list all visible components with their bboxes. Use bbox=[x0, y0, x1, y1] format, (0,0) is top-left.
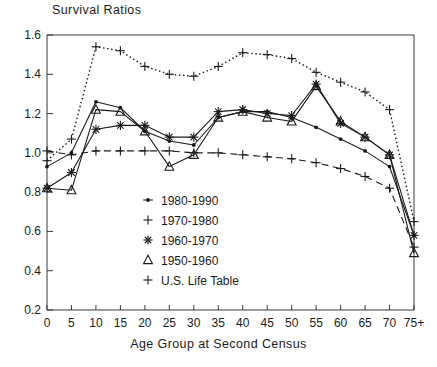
series-line-1960-1970 bbox=[47, 84, 414, 235]
x-tick-label: 45 bbox=[261, 316, 275, 330]
legend-label-4: U.S. Life Table bbox=[161, 274, 239, 288]
legend-label-1: 1970-1980 bbox=[161, 214, 219, 228]
x-tick-label: 20 bbox=[138, 316, 152, 330]
legend-label-3: 1950-1960 bbox=[161, 254, 219, 268]
y-tick-label: 1.6 bbox=[24, 28, 41, 42]
series-marker-1980-1990 bbox=[339, 137, 343, 141]
y-tick-label: 1.0 bbox=[24, 146, 41, 160]
series-marker-1980-1990 bbox=[94, 100, 98, 104]
series-marker-1980-1990 bbox=[45, 165, 49, 169]
series-marker-1980-1990 bbox=[314, 125, 318, 129]
x-tick-label: 60 bbox=[334, 316, 348, 330]
x-tick-label: 35 bbox=[212, 316, 226, 330]
series-marker-1980-1990 bbox=[388, 165, 392, 169]
x-tick-label: 10 bbox=[89, 316, 103, 330]
survival-ratios-figure: Survival Ratios 0.20.40.60.81.01.21.41.6… bbox=[0, 0, 437, 367]
y-tick-label: 1.2 bbox=[24, 107, 41, 121]
legend-label-0: 1980-1990 bbox=[161, 194, 219, 208]
y-tick-label: 0.8 bbox=[24, 185, 41, 199]
x-tick-label: 15 bbox=[114, 316, 128, 330]
y-tick-label: 1.4 bbox=[24, 67, 41, 81]
x-tick-label: 0 bbox=[44, 316, 51, 330]
x-tick-label: 25 bbox=[163, 316, 177, 330]
y-tick-label: 0.6 bbox=[24, 224, 41, 238]
series-marker-1980-1990 bbox=[363, 149, 367, 153]
x-axis-label: Age Group at Second Census bbox=[0, 337, 437, 351]
x-tick-label: 65 bbox=[358, 316, 372, 330]
y-tick-label: 0.4 bbox=[24, 264, 41, 278]
y-tick-label: 0.2 bbox=[24, 303, 41, 317]
x-tick-label: 5 bbox=[68, 316, 75, 330]
series-line-u-s-life-table bbox=[47, 151, 414, 247]
series-line-1980-1990 bbox=[47, 102, 414, 236]
legend-marker-3 bbox=[144, 255, 153, 263]
x-tick-label: 70 bbox=[383, 316, 397, 330]
x-tick-label: 50 bbox=[285, 316, 299, 330]
x-tick-label: 55 bbox=[309, 316, 323, 330]
plot-frame bbox=[47, 35, 414, 310]
chart-canvas: 0.20.40.60.81.01.21.41.60510152025303540… bbox=[0, 0, 437, 367]
x-tick-label: 75+ bbox=[404, 316, 424, 330]
x-tick-label: 30 bbox=[187, 316, 201, 330]
legend-label-2: 1960-1970 bbox=[161, 234, 219, 248]
x-tick-label: 40 bbox=[236, 316, 250, 330]
series-marker-1980-1990 bbox=[192, 143, 196, 147]
